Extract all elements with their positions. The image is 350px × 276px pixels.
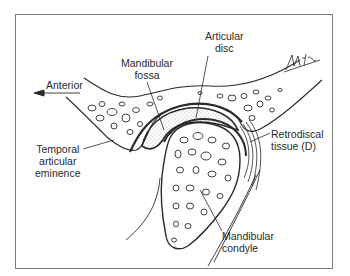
label-mandibular-condyle: Mandibular condyle xyxy=(222,230,274,254)
label-articular-disc: Articular disc xyxy=(205,30,244,54)
artist-signature xyxy=(284,54,320,72)
label-retrodiscal-tissue: Retrodiscal tissue (D) xyxy=(271,128,324,152)
label-mandibular-fossa: Mandibular fossa xyxy=(121,57,173,81)
leader-temporal-eminence xyxy=(83,140,114,149)
label-temporal-articular-eminence: Temporal articular eminence xyxy=(35,143,81,179)
temporal-bone-upper-outline xyxy=(84,60,300,97)
label-anterior: Anterior xyxy=(46,79,83,91)
anterior-soft-tissue-line xyxy=(126,178,160,240)
